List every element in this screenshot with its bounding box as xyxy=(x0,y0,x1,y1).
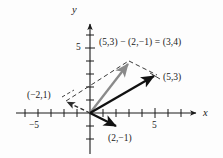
vector-neg-b-arrow xyxy=(67,102,90,113)
equation-annotation: (5,3) − (2,−1) = (3,4) xyxy=(99,38,181,48)
vector-a-label: (5,3) xyxy=(163,73,181,83)
leader-line-neg-b-upper xyxy=(62,90,74,97)
y-tick-label-5: 5 xyxy=(76,43,81,53)
vector-neg-b-label: (−2,1) xyxy=(27,91,51,101)
construction-line-negb-to-result xyxy=(66,62,127,101)
vector-a-arrow xyxy=(90,76,154,113)
vector-diagram-figure: y x 5 −5 5 (5,3) − (2,−1) = (3,4) (5,3) … xyxy=(0,0,223,158)
vector-b-label: (2,−1) xyxy=(108,134,132,144)
x-tick-label-5: 5 xyxy=(152,121,157,131)
construction-line-result-to-a xyxy=(129,61,157,75)
y-axis-label: y xyxy=(72,5,77,16)
x-tick-label-neg5: −5 xyxy=(29,121,39,131)
x-axis-label: x xyxy=(203,108,208,119)
vector-result-arrow xyxy=(90,64,128,113)
